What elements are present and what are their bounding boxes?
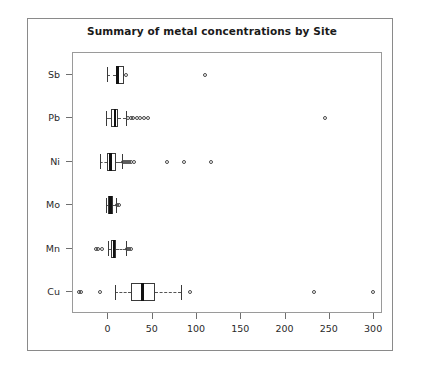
ytick-label-pb: Pb — [30, 112, 60, 123]
xtick-mark-300 — [373, 313, 374, 319]
screenshot-root: Summary of metal concentrations by Site … — [0, 0, 424, 369]
outlier-point — [312, 290, 316, 294]
xtick-mark-100 — [196, 313, 197, 319]
xtick-label-250: 250 — [320, 323, 338, 334]
xtick-mark-0 — [107, 313, 108, 319]
xtick-mark-150 — [240, 313, 241, 319]
ytick-mark-sb — [66, 74, 72, 75]
ytick-label-ni: Ni — [30, 155, 60, 166]
outlier-point — [98, 290, 102, 294]
ytick-label-mn: Mn — [30, 242, 60, 253]
whisker-high-line — [155, 292, 181, 293]
xtick-mark-50 — [152, 313, 153, 319]
ytick-mark-mo — [66, 204, 72, 205]
ytick-mark-cu — [66, 291, 72, 292]
ytick-mark-mn — [66, 248, 72, 249]
xtick-label-300: 300 — [364, 323, 382, 334]
ytick-label-mo: Mo — [30, 199, 60, 210]
whisker-low-line — [115, 292, 131, 293]
median-line — [141, 283, 144, 301]
xtick-label-200: 200 — [275, 323, 293, 334]
xtick-label-100: 100 — [187, 323, 205, 334]
ytick-label-cu: Cu — [30, 286, 60, 297]
plot-area — [72, 52, 382, 313]
ytick-mark-pb — [66, 117, 72, 118]
outlier-point — [188, 290, 192, 294]
xtick-mark-200 — [285, 313, 286, 319]
xtick-mark-250 — [329, 313, 330, 319]
xtick-label-50: 50 — [146, 323, 158, 334]
chart-title: Summary of metal concentrations by Site — [0, 25, 424, 37]
boxplot-cu — [73, 53, 381, 312]
plot-inner — [73, 53, 381, 312]
xtick-label-0: 0 — [104, 323, 110, 334]
ytick-mark-ni — [66, 161, 72, 162]
ytick-label-sb: Sb — [30, 68, 60, 79]
xtick-label-150: 150 — [231, 323, 249, 334]
outlier-point — [79, 290, 83, 294]
cap-high — [181, 285, 182, 300]
outlier-point — [371, 290, 375, 294]
cap-low — [115, 285, 116, 300]
